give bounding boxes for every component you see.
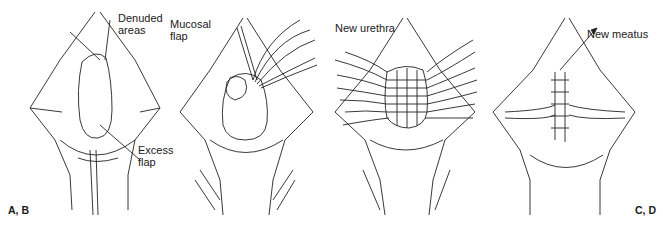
panel-c: New urethra [325, 0, 485, 228]
label-denuded-areas: Denuded areas [118, 12, 163, 36]
label-line: Denuded [118, 12, 163, 24]
label-line: Mucosal [170, 18, 211, 30]
figure-letter-ab: A, B [8, 204, 29, 216]
label-line: flap [170, 30, 211, 42]
illustration-c [325, 0, 485, 228]
panel-a: Denuded areas Excess flap A, B [0, 0, 165, 228]
label-new-meatus: New meatus [587, 28, 648, 40]
label-new-urethra: New urethra [335, 22, 395, 34]
panel-d: New meatus C, D [485, 0, 663, 228]
panel-b: Mucosal flap [165, 0, 325, 228]
label-mucosal-flap: Mucosal flap [170, 18, 211, 42]
label-line: areas [118, 24, 163, 36]
figure-letter-cd: C, D [635, 204, 656, 216]
